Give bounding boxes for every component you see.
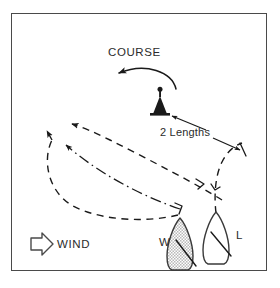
outlined-right-arrow-icon xyxy=(31,233,53,255)
wind-label: WIND xyxy=(57,238,90,250)
racing-mark-buoy-icon xyxy=(150,87,170,116)
diagram-canvas: COURSE 2 Lengths WIND W L xyxy=(0,0,280,288)
diagram-graphics xyxy=(0,0,280,288)
course-label: COURSE xyxy=(108,46,161,58)
dashed-track-icon xyxy=(47,131,178,219)
track-direction-arrow-icon xyxy=(175,179,220,214)
course-arrow-icon xyxy=(119,68,176,89)
leeward-boat-label: L xyxy=(236,229,242,241)
windward-boat-label: W xyxy=(159,236,170,248)
dash-dot-track-icon xyxy=(66,145,180,209)
sailboat-hull-shaded-icon xyxy=(167,218,196,270)
sailboat-hull-outline-icon xyxy=(203,212,231,264)
two-lengths-label: 2 Lengths xyxy=(160,126,210,138)
dashed-track-icon xyxy=(215,143,242,213)
